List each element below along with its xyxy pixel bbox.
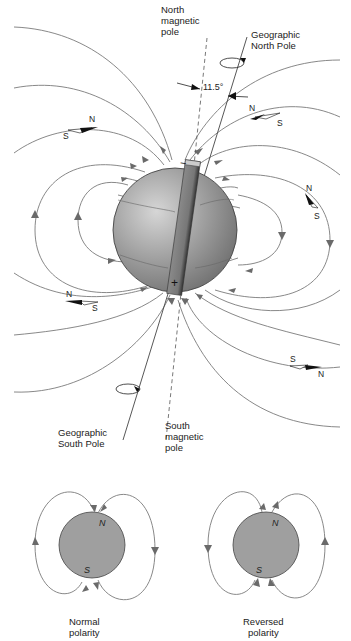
reversed-polarity-inset — [204, 492, 329, 598]
compass-s-label: S — [314, 211, 320, 221]
normal-n-label: N — [99, 518, 106, 528]
compass-n-label: N — [89, 114, 95, 124]
normal-polarity-caption: Normal polarity — [69, 616, 100, 638]
geographic-south-pole-label: Geographic South Pole — [58, 427, 107, 449]
compass-s-label: S — [290, 354, 296, 364]
compass-s-label: S — [277, 118, 283, 128]
normal-polarity-inset — [32, 492, 159, 600]
bar-positive-sign: + — [171, 278, 178, 289]
compass-n-label: N — [318, 369, 324, 379]
compass-n-label: N — [306, 183, 312, 193]
geographic-north-pole-label: Geographic North Pole — [251, 29, 300, 51]
normal-s-label: S — [84, 565, 90, 575]
rotation-icon — [220, 58, 244, 68]
compass-n-label: N — [66, 289, 72, 299]
compass-s-label: S — [92, 303, 98, 313]
compass-needle — [250, 113, 280, 120]
reversed-s-label: S — [256, 565, 262, 575]
angle-label: 11.5° — [203, 82, 223, 93]
reversed-polarity-caption: Reversed polarity — [243, 616, 284, 638]
south-magnetic-pole-label: South magnetic pole — [165, 420, 204, 453]
earth-magnetic-field-diagram — [0, 0, 351, 641]
reversed-n-label: N — [272, 518, 279, 528]
compass-n-label: N — [249, 103, 255, 113]
north-magnetic-pole-label: North magnetic pole — [161, 4, 200, 37]
compass-s-label: S — [63, 131, 69, 141]
